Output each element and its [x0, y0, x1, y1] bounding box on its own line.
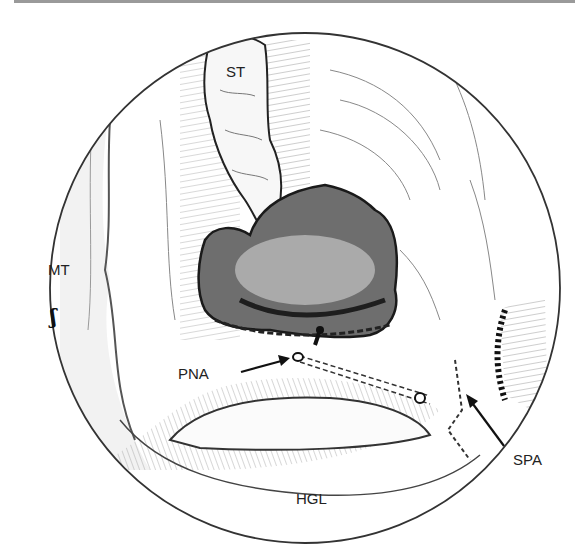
pna-arrow — [241, 360, 285, 372]
endoscopic-illustration — [0, 0, 575, 544]
label-hgl: HGL — [296, 491, 327, 506]
label-mt: MT — [48, 262, 70, 277]
label-spa: SPA — [513, 452, 542, 467]
spa-arrow — [470, 400, 504, 446]
endoscope-field — [60, 35, 548, 496]
margin-mark: ʃ — [50, 305, 57, 329]
label-st: ST — [226, 64, 245, 79]
label-pna: PNA — [178, 366, 209, 381]
